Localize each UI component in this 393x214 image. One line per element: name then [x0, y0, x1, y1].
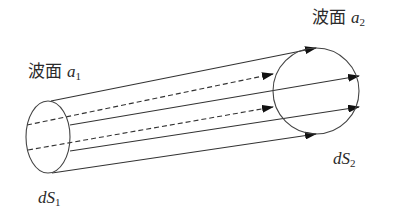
wavefront-a1-text: 波面	[28, 61, 62, 81]
ray-bottom-solid	[52, 134, 316, 173]
area-ds1-var: dS1	[38, 188, 61, 207]
wavefront-a2-var: a2	[351, 8, 365, 27]
area-ds2-subscript: 2	[350, 157, 356, 169]
wavefront-a1-var: a1	[67, 62, 81, 81]
area-ds2-label: dS2	[333, 150, 356, 169]
wavefront-a1-symbol: a	[67, 62, 76, 81]
ray-lower-solid	[70, 107, 359, 151]
wavefront-a2-subscript: 2	[360, 16, 366, 28]
area-ds2-symbol: dS	[333, 149, 350, 168]
wavefront-a2-label: 波面 a2	[312, 9, 365, 28]
area-ds1-symbol: dS	[38, 188, 55, 207]
area-ds1-subscript: 1	[55, 196, 61, 208]
wavefront-a1-subscript: 1	[76, 70, 82, 82]
area-ds1-label: dS1	[38, 189, 61, 208]
wavefront-a1-label: 波面 a1	[28, 63, 81, 82]
area-element-ds2-circle	[273, 48, 359, 134]
wavefront-a2-symbol: a	[351, 8, 360, 27]
wavefront-ray-tube-diagram	[0, 0, 393, 214]
ray-upper-solid	[70, 76, 359, 125]
area-element-ds1-ellipse	[26, 101, 70, 173]
wavefront-a2-text: 波面	[312, 7, 346, 27]
area-ds2-var: dS2	[333, 149, 356, 168]
